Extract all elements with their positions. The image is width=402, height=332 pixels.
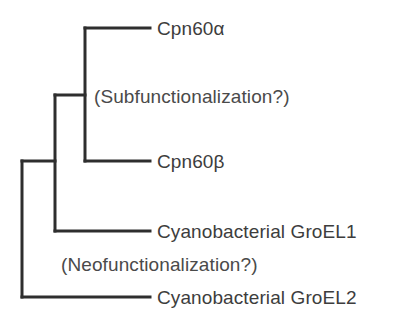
annotation-neofunctionalization: (Neofunctionalization?) — [61, 255, 258, 274]
taxon-label-groel1: Cyanobacterial GroEL1 — [157, 222, 357, 241]
taxon-label-groel2: Cyanobacterial GroEL2 — [157, 288, 357, 307]
taxon-label-cpn60b: Cpn60β — [157, 152, 225, 171]
annotation-subfunctionalization: (Subfunctionalization?) — [94, 87, 290, 106]
taxon-label-cpn60a: Cpn60α — [157, 19, 225, 38]
phylogenetic-tree-figure: Cpn60α Cpn60β Cyanobacterial GroEL1 Cyan… — [0, 0, 402, 332]
